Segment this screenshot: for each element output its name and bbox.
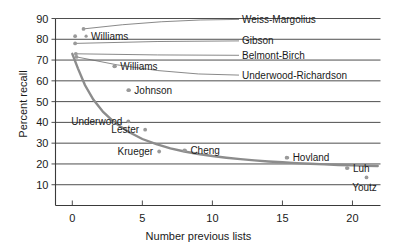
data-point [143,128,147,132]
x-axis-label: Number previous lists [0,230,397,242]
point-label: Luh [353,163,370,174]
point-label: Underwood-Richardson [242,70,347,81]
x-tick-label: 0 [69,212,75,224]
label-marker-dot [346,167,349,170]
y-tick-group: 102030405060708090 [36,13,55,191]
y-tick-label: 70 [36,54,48,66]
y-tick-label: 80 [36,33,48,45]
leader-line [84,19,240,29]
label-marker-dot [184,149,187,152]
data-point [126,119,130,123]
point-label: Williams [120,61,157,72]
scatter-plot: 102030405060708090 05101520 WilliamsWeis… [0,0,397,251]
point-label: Krueger [118,146,154,157]
y-tick-label: 50 [36,96,48,108]
point-label: Gibson [242,35,274,46]
point-label: Hovland [293,152,330,163]
data-point [75,55,79,59]
y-tick-label: 10 [36,179,48,191]
y-tick-label: 30 [36,137,48,149]
y-axis-label: Percent recall [17,34,29,174]
point-label: Youtz [352,182,377,193]
point-label: Belmont-Birch [242,50,305,61]
data-point [82,27,86,31]
label-marker-dot [286,156,289,159]
gridlines-group [56,19,381,185]
leader-line [76,54,239,56]
label-marker-dot [128,89,131,92]
x-tick-label: 5 [139,212,145,224]
point-label: Williams [91,31,128,42]
point-label: Cheng [190,145,219,156]
x-tick-label: 10 [206,212,218,224]
point-label: Lester [111,124,139,135]
x-tick-label: 20 [346,212,358,224]
x-tick-label: 15 [276,212,288,224]
y-tick-label: 60 [36,75,48,87]
y-tick-label: 40 [36,116,48,128]
chart-figure: 102030405060708090 05101520 WilliamsWeis… [0,0,397,251]
point-label: Johnson [134,85,172,96]
y-tick-label: 90 [36,13,48,25]
data-point [365,176,369,180]
label-marker-dot [114,65,117,68]
label-marker-dot [85,35,88,38]
data-point [73,34,77,38]
x-tick-group: 05101520 [69,201,358,224]
y-tick-label: 20 [36,158,48,170]
data-point [73,42,77,46]
point-label: Weiss-Margolius [242,14,316,25]
data-point [157,150,161,154]
